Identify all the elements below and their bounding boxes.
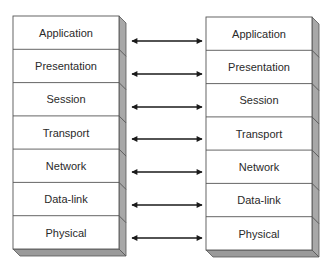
osi-diagram: Application Presentation Session Transpo… — [0, 0, 328, 269]
right-stack-bottom-bevel — [206, 250, 319, 257]
left-layer-transport: Transport — [43, 127, 90, 139]
left-layer-network: Network — [46, 160, 87, 172]
right-layer-network: Network — [239, 161, 280, 173]
left-stack-bottom-bevel — [13, 249, 126, 256]
left-layer-physical: Physical — [46, 227, 87, 239]
right-layer-application: Application — [232, 28, 286, 40]
right-layer-data-link: Data-link — [237, 194, 281, 206]
left-stack-side-bevel — [119, 16, 126, 256]
right-stack-side-bevel — [312, 17, 319, 257]
right-layer-session: Session — [239, 94, 278, 106]
right-stack: Application Presentation Session Transpo… — [206, 17, 319, 257]
left-layer-data-link: Data-link — [44, 193, 88, 205]
left-layer-session: Session — [46, 93, 85, 105]
right-layer-presentation: Presentation — [228, 61, 290, 73]
peer-arrows — [132, 41, 202, 238]
left-layer-application: Application — [39, 27, 93, 39]
left-stack: Application Presentation Session Transpo… — [13, 16, 126, 256]
right-layer-transport: Transport — [236, 128, 283, 140]
right-layer-physical: Physical — [239, 228, 280, 240]
left-layer-presentation: Presentation — [35, 60, 97, 72]
